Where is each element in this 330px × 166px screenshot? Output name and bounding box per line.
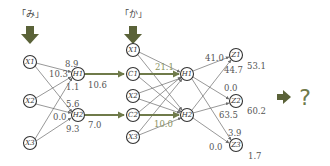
svg-text:Z1: Z1 <box>230 51 240 59</box>
svg-text:Z2: Z2 <box>230 97 241 105</box>
node-z1: Z1 <box>230 49 243 62</box>
svg-text:H2: H2 <box>72 111 84 119</box>
node-x1: X1 <box>127 44 140 57</box>
weight-label-c1: 21.1 <box>155 62 174 72</box>
z2-value: 60.2 <box>247 106 266 116</box>
weight-label: 0.0 <box>224 83 238 93</box>
weight-label: 1.1 <box>66 82 80 92</box>
weight-label: 5.6 <box>66 99 80 109</box>
weight-label: 41.0 <box>205 53 224 63</box>
weight-label-c2: 10.0 <box>154 119 173 129</box>
h1-value: 10.6 <box>88 80 107 90</box>
weight-label: 63.5 <box>219 110 238 120</box>
weight-label: 44.7 <box>224 65 243 75</box>
svg-text:C2: C2 <box>128 111 138 119</box>
input-char-ka: 「か」 <box>120 9 147 19</box>
z1-value: 53.1 <box>247 61 266 71</box>
weight-label: 3.9 <box>228 128 242 138</box>
weight-label: 10.3 <box>49 69 68 79</box>
right-arrow-icon <box>277 90 291 104</box>
node-c1: C1 <box>127 68 140 81</box>
node-z3: Z3 <box>230 139 243 152</box>
svg-text:X3: X3 <box>127 133 138 141</box>
node-x3: X3 <box>127 131 140 144</box>
unknown-result: ? <box>299 85 311 110</box>
node-h1: H1 <box>181 68 194 81</box>
z3-value: 1.7 <box>248 151 262 161</box>
node-x3: X3 <box>24 137 37 150</box>
node-h1: H1 <box>72 68 85 81</box>
svg-text:X1: X1 <box>127 46 137 54</box>
node-x2: X2 <box>127 90 140 103</box>
node-x1: X1 <box>24 56 37 69</box>
svg-text:H1: H1 <box>72 70 84 78</box>
weight-label: 9.3 <box>66 124 80 134</box>
svg-text:X3: X3 <box>24 139 35 147</box>
svg-text:X1: X1 <box>24 58 34 66</box>
node-h2: H2 <box>181 109 194 122</box>
h2-value: 7.0 <box>88 120 102 130</box>
node-c2: C2 <box>127 109 140 122</box>
weight-label: 0.0 <box>209 142 223 152</box>
rnn-diagram: 「み」 8.9 10.3 1.1 5.6 0.0 9.3 X1 X2 X3 H1… <box>0 0 330 166</box>
node-z2: Z2 <box>230 95 243 108</box>
down-arrow-icon <box>124 26 142 44</box>
weight-label: 0.0 <box>53 112 67 122</box>
svg-text:C1: C1 <box>128 70 138 78</box>
svg-text:X2: X2 <box>127 92 138 100</box>
node-h2: H2 <box>72 109 85 122</box>
svg-text:H1: H1 <box>181 70 193 78</box>
input-char-mi: 「み」 <box>17 9 44 19</box>
svg-text:H2: H2 <box>181 111 193 119</box>
down-arrow-icon <box>21 26 39 44</box>
svg-text:X2: X2 <box>24 97 35 105</box>
svg-text:Z3: Z3 <box>230 141 241 149</box>
node-x2: X2 <box>24 95 37 108</box>
